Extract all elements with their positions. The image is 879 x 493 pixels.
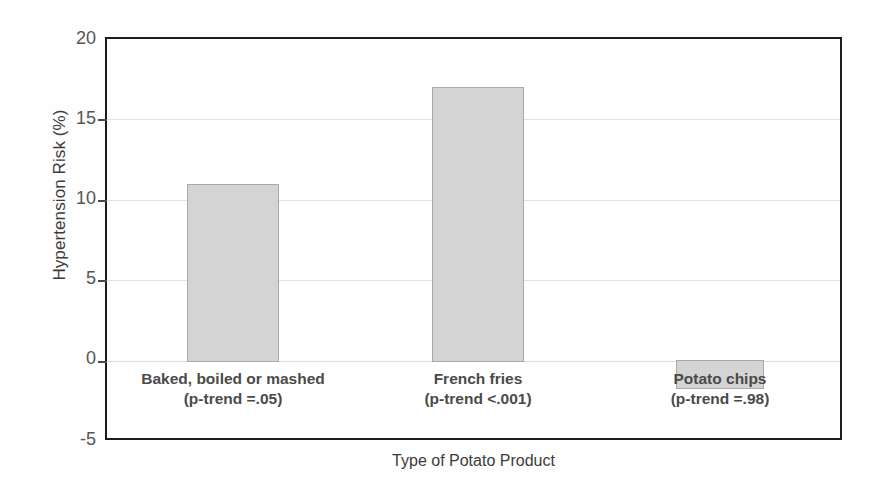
category-label-baked-boiled-or-mashed: Baked, boiled or mashed (p-trend =.05) — [113, 369, 353, 409]
category-label-potato-chips: Potato chips (p-trend =.98) — [612, 369, 828, 409]
category-label-line2: (p-trend =.05) — [113, 389, 353, 409]
category-label-line1: French fries — [434, 370, 523, 387]
x-axis-title: Type of Potato Product — [105, 452, 842, 470]
y-tick-label-20: 20 — [40, 29, 96, 47]
tick-mark-10 — [98, 200, 107, 202]
category-label-french-fries: French fries (p-trend <.001) — [368, 369, 588, 409]
tick-mark-0 — [98, 361, 107, 363]
tick-mark-15 — [98, 119, 107, 121]
tick-mark-5 — [98, 280, 107, 282]
category-label-line2: (p-trend =.98) — [612, 389, 828, 409]
chart-figure: Hypertension Risk (%) 20 15 10 5 0 -5 Ba… — [0, 0, 879, 493]
plot-area: Baked, boiled or mashed (p-trend =.05) F… — [105, 37, 842, 440]
category-label-line1: Potato chips — [673, 370, 766, 387]
y-tick-label-0: 0 — [40, 349, 96, 367]
y-tick-label-neg5: -5 — [40, 430, 96, 448]
category-label-line2: (p-trend <.001) — [368, 389, 588, 409]
bar-baked-boiled-or-mashed — [187, 184, 279, 362]
y-axis-tick-labels: 20 15 10 5 0 -5 — [34, 0, 96, 493]
y-tick-label-15: 15 — [40, 109, 96, 127]
bar-french-fries — [432, 87, 524, 362]
y-tick-label-10: 10 — [40, 189, 96, 207]
category-label-line1: Baked, boiled or mashed — [141, 370, 324, 387]
y-tick-label-5: 5 — [40, 269, 96, 287]
